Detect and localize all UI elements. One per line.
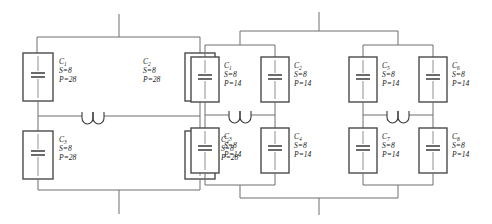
- svg-text:P=14: P=14: [381, 150, 400, 159]
- svg-text:S=8: S=8: [224, 141, 237, 150]
- left-circuit: C1 S=8 P=28 C2 S=8 P=28: [23, 14, 239, 214]
- svg-text:P=14: P=14: [223, 150, 242, 159]
- s-value: 8: [233, 70, 237, 79]
- capacitor-box-R-C2[interactable]: [261, 57, 289, 102]
- svg-text:P=14: P=14: [451, 79, 470, 88]
- svg-text:P=28: P=28: [58, 75, 77, 84]
- capacitor-label-R-C5: C5 S=8 P=14: [381, 61, 400, 88]
- capacitor-box-R-C6[interactable]: [419, 57, 447, 102]
- p-value: 14: [304, 150, 312, 159]
- capacitor-box-R-C7[interactable]: [349, 128, 377, 173]
- left-bottom-wiring: [38, 179, 200, 214]
- s-value: 8: [303, 141, 307, 150]
- s-value: 8: [391, 141, 395, 150]
- svg-text:P=14: P=14: [381, 79, 400, 88]
- left-middle-wiring: [38, 101, 200, 131]
- svg-text:S=8: S=8: [294, 70, 307, 79]
- p-value: 14: [392, 79, 400, 88]
- s-value: 8: [68, 66, 72, 75]
- capacitor-label-R-C7: C7 S=8 P=14: [381, 132, 400, 159]
- svg-text:S=8: S=8: [294, 141, 307, 150]
- s-value: 8: [152, 66, 156, 75]
- capacitor-label-L-C3: C3 S=8 P=28: [58, 135, 77, 162]
- left-top-wiring: [37, 14, 200, 53]
- inductor-coil-right-2: [387, 111, 409, 123]
- capacitor-box-R-C1[interactable]: [191, 57, 219, 102]
- inductor-coil-left: [82, 112, 104, 124]
- capacitor-box-R-C4[interactable]: [261, 128, 289, 173]
- svg-text:S=8: S=8: [143, 66, 156, 75]
- s-value: 8: [233, 141, 237, 150]
- s-value: 8: [461, 141, 465, 150]
- capacitor-label-L-C2: C2 S=8 P=28: [142, 57, 161, 84]
- capacitor-label-R-C1: C1 S=8 P=14: [223, 61, 242, 88]
- capacitor-box-R-C3[interactable]: [191, 128, 219, 173]
- p-value: 14: [234, 79, 242, 88]
- capacitor-label-R-C4: C4 S=8 P=14: [293, 132, 312, 159]
- svg-text:P=28: P=28: [58, 153, 77, 162]
- svg-text:S=8: S=8: [382, 141, 395, 150]
- p-value: 14: [462, 79, 470, 88]
- right-circuit: C1 S=8 P=14 C2 S=8 P=14 C5 S=8: [191, 12, 470, 215]
- capacitor-box-L-C3[interactable]: [23, 131, 53, 179]
- svg-text:S=8: S=8: [59, 144, 72, 153]
- svg-text:S=8: S=8: [452, 141, 465, 150]
- p-value: 28: [69, 75, 77, 84]
- right-top-wiring: [205, 12, 433, 57]
- circuit-diagram-figure: C1 S=8 P=28 C2 S=8 P=28: [0, 0, 492, 224]
- svg-text:P=28: P=28: [142, 75, 161, 84]
- capacitor-box-R-C5[interactable]: [349, 57, 377, 102]
- s-value: 8: [391, 70, 395, 79]
- p-value: 28: [153, 75, 161, 84]
- svg-text:S=8: S=8: [224, 70, 237, 79]
- p-value: 14: [234, 150, 242, 159]
- capacitor-box-L-C1[interactable]: [23, 53, 53, 101]
- p-value: 28: [69, 153, 77, 162]
- capacitor-label-R-C3: C3 S=8 P=14: [223, 132, 242, 159]
- capacitor-label-R-C2: C2 S=8 P=14: [293, 61, 312, 88]
- s-value: 8: [303, 70, 307, 79]
- svg-text:S=8: S=8: [59, 66, 72, 75]
- capacitor-label-L-C1: C1 S=8 P=28: [58, 57, 77, 84]
- svg-text:P=14: P=14: [293, 79, 312, 88]
- p-value: 14: [392, 150, 400, 159]
- p-value: 14: [462, 150, 470, 159]
- svg-text:S=8: S=8: [452, 70, 465, 79]
- svg-text:P=14: P=14: [451, 150, 470, 159]
- s-value: 8: [461, 70, 465, 79]
- svg-text:P=14: P=14: [293, 150, 312, 159]
- svg-text:P=14: P=14: [223, 79, 242, 88]
- inductor-coil-right-1: [229, 111, 251, 123]
- svg-text:S=8: S=8: [382, 70, 395, 79]
- capacitor-label-R-C6: C6 S=8 P=14: [451, 61, 470, 88]
- capacitor-label-R-C8: C8 S=8 P=14: [451, 132, 470, 159]
- right-bottom-wiring: [205, 173, 433, 215]
- s-value: 8: [68, 144, 72, 153]
- p-value: 14: [304, 79, 312, 88]
- capacitor-box-R-C8[interactable]: [419, 128, 447, 173]
